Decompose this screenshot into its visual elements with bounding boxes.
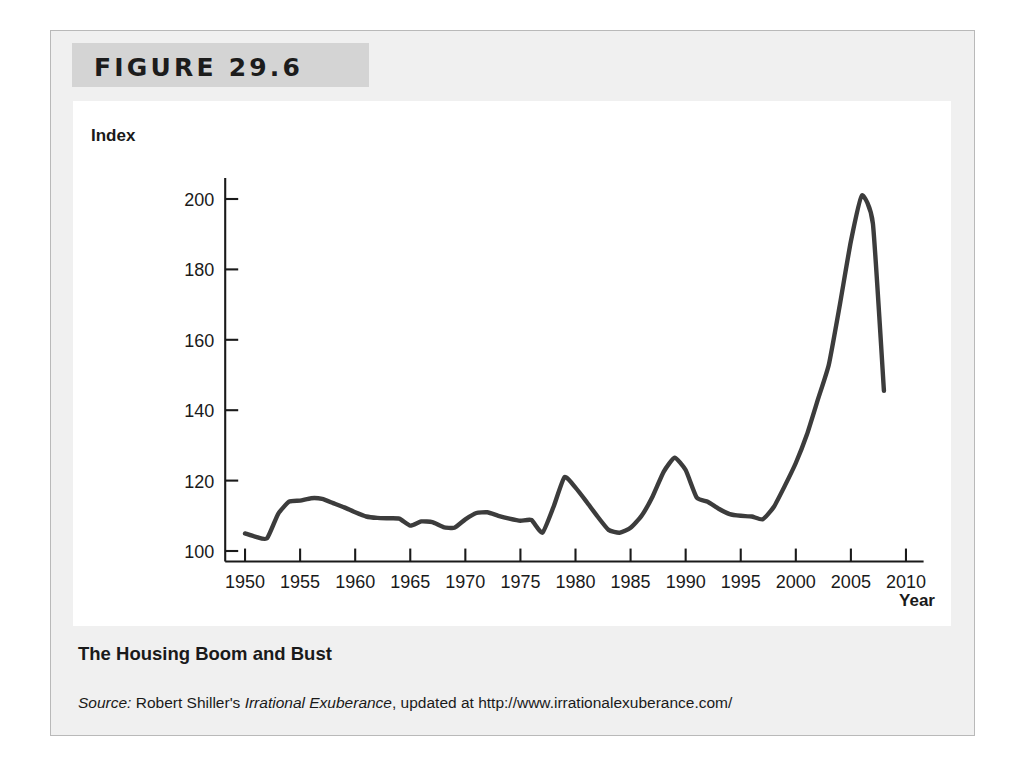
- x-tick-label: 1950: [225, 572, 265, 592]
- x-tick-label: 1960: [335, 572, 375, 592]
- x-tick-label: 2005: [831, 572, 871, 592]
- source-suffix: , updated at http://www.irrationalexuber…: [392, 694, 732, 711]
- chart-plot-panel: 100120140160180200 195019551960196519701…: [73, 101, 951, 626]
- x-tick-label: 1975: [500, 572, 540, 592]
- x-tick-label: 1985: [611, 572, 651, 592]
- y-axis-label: Index: [91, 126, 136, 145]
- x-tick-label: 1955: [280, 572, 320, 592]
- y-tick-label: 140: [184, 401, 214, 421]
- y-axis-tick-labels: 100120140160180200: [184, 190, 214, 562]
- y-tick-label: 120: [184, 472, 214, 492]
- x-tick-label: 1965: [390, 572, 430, 592]
- x-tick-label: 1995: [721, 572, 761, 592]
- figure-source-line: Source: Robert Shiller's Irrational Exub…: [78, 694, 732, 712]
- x-tick-label: 1980: [555, 572, 595, 592]
- x-tick-label: 2010: [886, 572, 926, 592]
- x-tick-label: 2000: [776, 572, 816, 592]
- x-tick-label: 1970: [445, 572, 485, 592]
- x-tick-label: 1990: [666, 572, 706, 592]
- source-author: Robert Shiller's: [131, 694, 244, 711]
- figure-caption-title: The Housing Boom and Bust: [78, 643, 332, 665]
- chart-series-lines: [245, 195, 884, 539]
- figure-card: FIGURE 29.6 100120140160180200 195019551…: [50, 30, 975, 736]
- y-tick-label: 180: [184, 260, 214, 280]
- source-book-title: Irrational Exuberance: [245, 694, 392, 711]
- figure-page: FIGURE 29.6 100120140160180200 195019551…: [0, 0, 1011, 777]
- y-tick-label: 160: [184, 331, 214, 351]
- figure-number-label: FIGURE 29.6: [94, 53, 303, 82]
- source-prefix: Source:: [78, 694, 131, 711]
- series-line: [245, 195, 884, 539]
- housing-price-index-line-chart: 100120140160180200 195019551960196519701…: [73, 101, 951, 626]
- figure-number-banner: FIGURE 29.6: [72, 43, 369, 87]
- x-axis-tick-labels: 1950195519601965197019751980198519901995…: [225, 572, 926, 592]
- y-tick-label: 200: [184, 190, 214, 210]
- x-axis-label: Year: [899, 591, 935, 610]
- y-tick-label: 100: [184, 542, 214, 562]
